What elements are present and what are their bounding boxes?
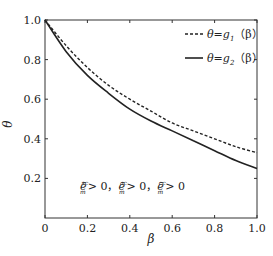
x-tick-label: 0.8 [206,222,224,235]
y-tick-label: 1.0 [24,14,42,27]
y-tick-label: 0.4 [24,133,42,146]
legend-label-g1: θ=g1（β） [207,28,263,43]
x-axis-label: β [147,232,155,246]
x-tick-label: 0.2 [79,222,97,235]
legend-label-g2: θ=g2（β） [207,52,263,67]
x-tick-label: 1.0 [248,222,266,235]
y-tick-label: 0.2 [24,172,42,185]
series-lines [45,20,257,169]
series-line-g2-solid [45,20,257,169]
x-tick-label: 0.4 [121,222,139,235]
y-axis-label: θ [1,120,15,128]
x-tick-label: 0.6 [163,222,181,235]
y-tick-labels: 0.20.40.60.81.0 [24,14,42,185]
condition-annotation: ēscm> 0，ēacm> 0，ēccm> 0 [80,179,185,195]
y-tick-label: 0.8 [24,54,42,67]
line-chart: 00.20.40.60.81.0 0.20.40.60.81.0 β θ θ=g… [0,0,273,256]
x-tick-label: 0 [42,222,49,235]
legend: θ=g1（β） θ=g2（β） [185,28,263,67]
y-tick-label: 0.6 [24,93,42,106]
